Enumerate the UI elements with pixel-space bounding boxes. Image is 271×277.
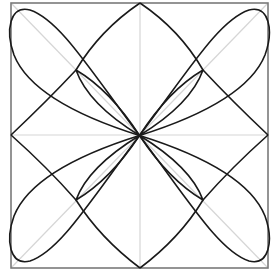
geometric-rosette-diagram (0, 0, 271, 277)
